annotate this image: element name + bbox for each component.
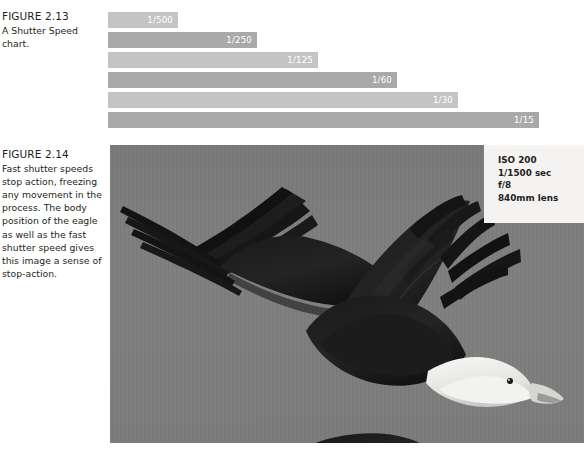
exif-lens: 840mm lens — [498, 192, 584, 205]
chart-bar: 1/60 — [108, 72, 397, 88]
chart-bar: 1/30 — [108, 92, 458, 108]
exif-aperture: f/8 — [498, 179, 584, 192]
figure-2-14-caption: FIGURE 2.14 Fast shutter speeds stop act… — [2, 148, 102, 280]
chart-bar-label: 1/60 — [372, 76, 392, 85]
figure-2-14-description: Fast shutter speeds stop action, freezin… — [2, 162, 102, 281]
chart-bar-row: 1/250 — [108, 32, 540, 48]
chart-bar: 1/250 — [108, 32, 257, 48]
chart-bar-label: 1/125 — [287, 56, 313, 65]
exif-info-box: ISO 200 1/1500 sec f/8 840mm lens — [484, 145, 584, 223]
chart-bar: 1/15 — [108, 112, 539, 128]
chart-bar-label: 1/250 — [226, 36, 252, 45]
chart-bar-row: 1/500 — [108, 12, 540, 28]
eagle-eye — [507, 378, 513, 384]
eagle-group — [120, 187, 564, 443]
eagle-photograph: ISO 200 1/1500 sec f/8 840mm lens — [110, 145, 584, 443]
chart-bar-label: 1/15 — [514, 116, 534, 125]
exif-iso: ISO 200 — [498, 154, 584, 167]
chart-bar-row: 1/15 — [108, 112, 540, 128]
figure-2-13-description: A Shutter Speed chart. — [2, 24, 102, 50]
chart-bar-label: 1/500 — [147, 16, 173, 25]
shutter-speed-chart: 1/500 1/250 1/125 1/60 1/30 1/15 — [108, 12, 540, 136]
chart-bar-row: 1/30 — [108, 92, 540, 108]
figure-2-14-title: FIGURE 2.14 — [2, 148, 102, 162]
chart-bar-row: 1/125 — [108, 52, 540, 68]
figure-2-13-caption: FIGURE 2.13 A Shutter Speed chart. — [2, 10, 102, 50]
eagle-lower-wing — [282, 433, 442, 443]
chart-bar-label: 1/30 — [433, 96, 453, 105]
chart-bar: 1/125 — [108, 52, 318, 68]
chart-bar: 1/500 — [108, 12, 178, 28]
chart-bar-row: 1/60 — [108, 72, 540, 88]
figure-2-13-title: FIGURE 2.13 — [2, 10, 102, 24]
eagle-head — [426, 357, 564, 407]
exif-shutter-speed: 1/1500 sec — [498, 167, 584, 180]
